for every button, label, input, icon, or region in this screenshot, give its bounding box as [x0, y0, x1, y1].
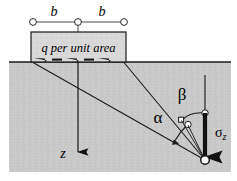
dimension-node-center [75, 19, 82, 26]
angle-alpha-label: α [154, 108, 163, 127]
strip-load-stress-diagram: b b q per unit area [0, 0, 237, 181]
dimension-label-left: b [51, 4, 58, 19]
load-label: q per unit area [41, 41, 115, 55]
diagram-canvas: b b q per unit area [0, 0, 237, 181]
stress-subscript: z [222, 131, 227, 142]
arc-marker-alpha-top [185, 121, 191, 127]
dimension-node-left [30, 19, 37, 26]
angle-beta-label: β [178, 85, 187, 104]
depth-axis-label: z [59, 146, 66, 161]
dimension-node-right [121, 19, 128, 26]
dimension-label-right: b [99, 4, 106, 19]
arc-marker-beta-left [179, 117, 184, 122]
stress-point-marker [201, 156, 210, 165]
